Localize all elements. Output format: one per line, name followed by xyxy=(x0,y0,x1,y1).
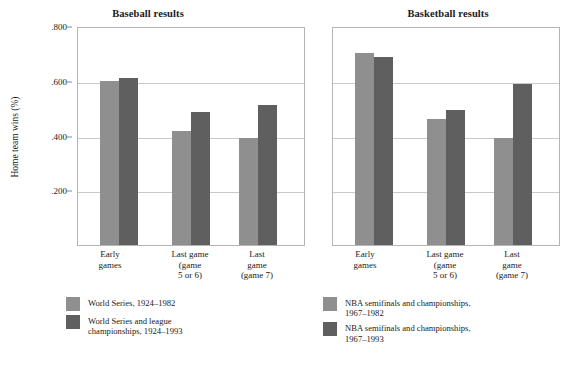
legend-label-line-2: championships, 1924–1993 xyxy=(88,326,183,336)
bar-basketball-early-light xyxy=(355,53,374,245)
legend-swatch-dark xyxy=(66,315,80,329)
legend-item-nba-1982: NBA semifinals and championships, 1967–1… xyxy=(323,297,568,318)
bar-basketball-last56-dark xyxy=(446,110,465,245)
y-tick-200: .200 xyxy=(51,186,67,196)
bar-baseball-last56-dark xyxy=(191,112,210,245)
legend-swatch-dark xyxy=(323,322,337,336)
y-tick-mark-400 xyxy=(67,136,72,137)
x-label-line-1: Early xyxy=(323,249,407,260)
bar-baseball-last56-light xyxy=(172,131,191,245)
x-label-line-1: Early xyxy=(68,249,152,260)
legend-swatch-light xyxy=(323,297,337,311)
legend-label-nba-1982: NBA semifinals and championships, 1967–1… xyxy=(345,297,471,318)
bar-baseball-early-light xyxy=(100,81,119,245)
bar-basketball-early-dark xyxy=(374,57,393,245)
y-tick-mark-200 xyxy=(67,191,72,192)
legend-baseball: World Series, 1924–1982 World Series and… xyxy=(66,297,316,340)
bar-basketball-last56-light xyxy=(427,119,446,245)
y-tick-mark-600 xyxy=(67,81,72,82)
y-axis-ticks: .800 .600 .400 .200 xyxy=(38,27,72,246)
plot-area-baseball xyxy=(77,27,305,246)
legend-label-line-1: NBA semifinals and championships, xyxy=(345,298,471,308)
panel-basketball: Basketball results Early games Last game… xyxy=(320,0,571,370)
y-tick-400: .400 xyxy=(51,132,67,142)
plot-area-basketball xyxy=(332,27,560,246)
x-label-line-2: game xyxy=(215,260,299,271)
legend-item-world-series: World Series, 1924–1982 xyxy=(66,297,316,311)
legend-basketball: NBA semifinals and championships, 1967–1… xyxy=(323,297,568,348)
x-label-line-2: game xyxy=(470,260,554,271)
x-label-line-3: (game 7) xyxy=(215,270,299,281)
bar-basketball-last7-dark xyxy=(513,84,532,245)
legend-swatch-light xyxy=(66,297,80,311)
legend-label-world-series: World Series, 1924–1982 xyxy=(88,297,175,308)
legend-label-line-1: World Series and league xyxy=(88,316,172,326)
legend-item-world-series-league: World Series and league championships, 1… xyxy=(66,315,316,336)
x-label-baseball-last7: Last game (game 7) xyxy=(215,249,299,281)
legend-label-nba-1993: NBA semifinals and championships, 1967–1… xyxy=(345,322,471,343)
bar-baseball-early-dark xyxy=(119,78,138,245)
figure-two-panel-bar-charts: Baseball results Home team wins (%) .800… xyxy=(0,0,571,370)
x-label-line-1: Last xyxy=(215,249,299,260)
panel-baseball: Baseball results Home team wins (%) .800… xyxy=(0,0,320,370)
y-tick-mark-800 xyxy=(67,27,72,28)
x-label-baseball-early: Early games xyxy=(68,249,152,270)
panel-title-baseball: Baseball results xyxy=(8,8,288,19)
legend-label-line-2: 1967–1993 xyxy=(345,334,471,344)
x-label-line-1: Last xyxy=(470,249,554,260)
legend-label-world-series-league: World Series and league championships, 1… xyxy=(88,315,183,336)
bar-baseball-last7-light xyxy=(239,138,258,245)
x-label-basketball-last7: Last game (game 7) xyxy=(470,249,554,281)
x-label-basketball-early: Early games xyxy=(323,249,407,270)
y-tick-800: .800 xyxy=(51,22,67,32)
y-axis-title-text: Home team wins (%) xyxy=(9,96,19,177)
bar-basketball-last7-light xyxy=(494,138,513,245)
legend-label-line-1: World Series, 1924–1982 xyxy=(88,298,175,308)
y-axis-title: Home team wins (%) xyxy=(6,27,22,246)
legend-label-line-2: 1967–1982 xyxy=(345,308,471,318)
x-label-line-2: games xyxy=(68,260,152,271)
panel-title-basketball: Basketball results xyxy=(308,8,571,19)
legend-label-line-1: NBA semifinals and championships, xyxy=(345,323,471,333)
bar-baseball-last7-dark xyxy=(258,105,277,245)
y-tick-600: .600 xyxy=(51,77,67,87)
legend-item-nba-1993: NBA semifinals and championships, 1967–1… xyxy=(323,322,568,343)
x-label-line-3: (game 7) xyxy=(470,270,554,281)
x-label-line-2: games xyxy=(323,260,407,271)
